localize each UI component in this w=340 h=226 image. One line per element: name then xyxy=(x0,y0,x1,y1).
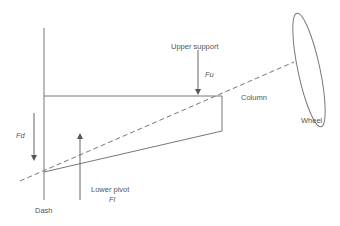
steering-column-diagram xyxy=(0,0,340,226)
wheel-ellipse xyxy=(286,11,332,129)
fd-label: Fd xyxy=(16,132,25,140)
lower-pivot-label: Lower pivot xyxy=(91,186,129,194)
column-outline xyxy=(44,96,222,172)
wheel-label: Wheel xyxy=(301,117,322,125)
fu-label: Fu xyxy=(205,71,214,79)
dash-label: Dash xyxy=(35,207,53,215)
fl-label: Fl xyxy=(109,196,115,204)
upper-support-label: Upper support xyxy=(171,43,219,51)
column-axis-dashed xyxy=(20,62,294,181)
column-label: Column xyxy=(241,94,267,102)
